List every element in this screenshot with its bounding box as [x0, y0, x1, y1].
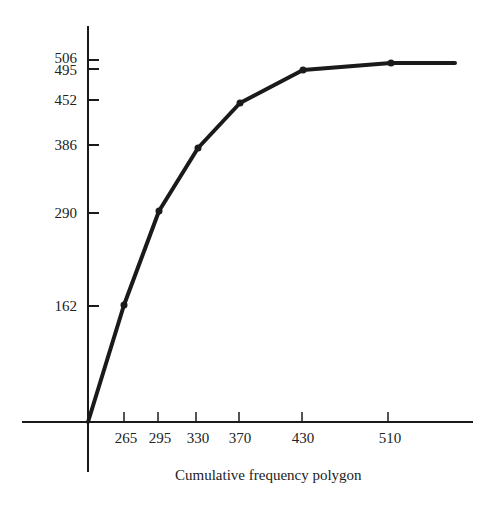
x-tick-label: 295 — [149, 431, 172, 446]
y-tick-label: 290 — [55, 206, 78, 221]
data-points — [121, 60, 395, 309]
y-tick-label: 452 — [55, 93, 78, 108]
y-tick-label: 495 — [55, 63, 78, 78]
y-ticks — [88, 60, 99, 306]
x-tick-label: 430 — [292, 431, 315, 446]
chart-caption: Cumulative frequency polygon — [175, 467, 362, 484]
x-tick-label: 510 — [379, 431, 402, 446]
x-tick-label: 370 — [229, 431, 252, 446]
y-tick-label: 162 — [55, 299, 78, 314]
cumulative-frequency-line — [88, 63, 455, 422]
x-tick-label: 330 — [187, 431, 210, 446]
x-tick-label: 265 — [115, 431, 138, 446]
x-ticks — [124, 412, 388, 422]
y-tick-label: 386 — [55, 138, 78, 153]
